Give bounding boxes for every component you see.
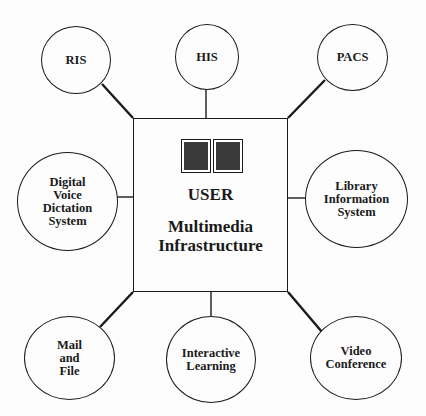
node-label: PACS <box>337 51 369 64</box>
node-label: RIS <box>66 54 87 67</box>
monitor-icon <box>181 139 211 173</box>
user-label: USER <box>134 185 287 205</box>
node-label: Interactive Learning <box>182 347 240 373</box>
node-label: Digital Voice Dictation System <box>43 176 92 228</box>
node-pacs: PACS <box>317 24 388 91</box>
node-digital-voice-dictation: Digital Voice Dictation System <box>17 152 118 251</box>
node-his: HIS <box>175 24 239 90</box>
node-interactive-learning: Interactive Learning <box>166 316 256 403</box>
two-monitors-icon <box>181 139 243 173</box>
node-library-information-system: Library Information System <box>305 150 408 248</box>
node-video-conference: Video Conference <box>310 316 402 400</box>
node-label: Mail and File <box>57 339 82 378</box>
node-ris: RIS <box>41 26 111 94</box>
node-label: Video Conference <box>326 345 387 371</box>
infrastructure-label: Multimedia Infrastructure <box>134 217 287 255</box>
monitor-icon <box>213 139 243 173</box>
node-label: Library Information System <box>324 180 389 219</box>
node-mail-and-file: Mail and File <box>24 316 115 400</box>
node-label: HIS <box>196 51 218 64</box>
user-multimedia-infrastructure-box: USER Multimedia Infrastructure <box>133 118 288 292</box>
